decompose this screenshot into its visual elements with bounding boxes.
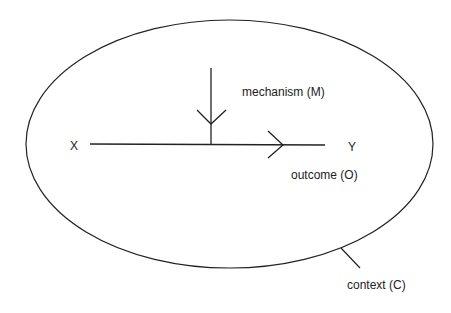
mechanism-label: mechanism (M) (242, 85, 325, 99)
cmo-diagram (0, 0, 451, 313)
node-x-label: X (70, 139, 78, 153)
x-to-y-line (90, 144, 325, 145)
outcome-label: outcome (O) (291, 168, 358, 182)
context-label: context (C) (347, 278, 406, 292)
context-pointer-line (341, 248, 360, 268)
node-y-label: Y (348, 140, 356, 154)
